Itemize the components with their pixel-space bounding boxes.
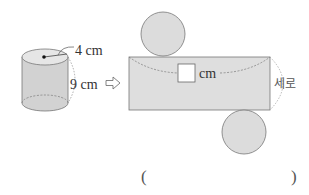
cylinder-net [129,12,283,154]
center-dot [42,55,46,59]
cylinder-net-diagram: 4 cm 9 cm cm 세로 ( ) [0,0,309,195]
net-top-circle [141,12,185,56]
net-bottom-circle [222,110,266,154]
answer-field[interactable] [150,168,288,186]
net-rectangle [129,57,270,110]
cylinder [22,47,75,111]
answer-close-paren: ) [291,167,297,186]
right-arrow-icon [106,77,120,89]
net-height-label: 세로 [274,77,296,91]
answer-open-paren: ( [141,167,147,186]
height-label: 9 cm [70,77,98,92]
radius-label: 4 cm [75,43,103,58]
width-blank-box[interactable] [178,64,195,82]
width-unit-label: cm [199,66,216,81]
